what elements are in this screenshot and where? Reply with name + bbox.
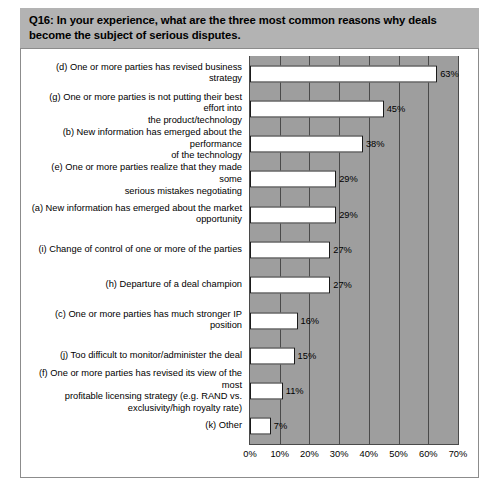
bar-category-label-line: (e) One or more parties realize that the… (27, 162, 242, 185)
bar (250, 136, 363, 153)
bar (250, 383, 283, 400)
bar-category-label-line: of the technology (27, 150, 242, 162)
bar-category-label-line: (h) Departure of a deal champion (27, 279, 242, 291)
bar-category-label: (k) Other (27, 421, 242, 433)
bar-value-label: 29% (339, 174, 358, 184)
bar-category-label: (b) New information has emerged about th… (27, 127, 242, 162)
bar-category-label-line: (g) One or more parties is not putting t… (27, 92, 242, 115)
bar-row: (e) One or more parties realize that the… (21, 162, 478, 197)
bar-category-label-line: opportunity (27, 215, 242, 227)
bar-row: (a) New information has emerged about th… (21, 197, 478, 232)
bar (250, 171, 336, 188)
bar-category-label: (c) One or more parties has much stronge… (27, 309, 242, 332)
bar-row: (g) One or more parties is not putting t… (21, 91, 478, 126)
bar-row: (h) Departure of a deal champion27% (21, 268, 478, 303)
x-tick-label: 10% (265, 449, 295, 459)
x-tick-label: 0% (235, 449, 265, 459)
bar-value-label: 11% (286, 386, 304, 396)
bar-category-label-line: profitable licensing strategy (e.g. RAND… (27, 391, 242, 403)
bar-value-label: 7% (274, 421, 287, 431)
question-title-band: Q16: In your experience, what are the th… (20, 8, 479, 48)
bar-category-label-line: (j) Too difficult to monitor/administer … (27, 350, 242, 362)
bar-row: (f) One or more parties has revised its … (21, 373, 478, 408)
x-axis-line (249, 444, 459, 445)
x-tick-label: 30% (324, 449, 354, 459)
bar-value-label: 27% (333, 280, 352, 290)
bar (250, 65, 437, 82)
bar-category-label: (d) One or more parties has revised busi… (27, 62, 242, 85)
bar-row: (b) New information has emerged about th… (21, 127, 478, 162)
bar-row: (d) One or more parties has revised busi… (21, 56, 478, 91)
bar-category-label-line: (b) New information has emerged about th… (27, 127, 242, 150)
bar-category-label: (g) One or more parties is not putting t… (27, 92, 242, 127)
bar (250, 241, 330, 258)
bar-value-label: 63% (440, 69, 459, 79)
bar-row: (i) Change of control of one or more of … (21, 232, 478, 267)
bar (250, 277, 330, 294)
bar-category-label-line: (k) Other (27, 421, 242, 433)
bar-value-label: 38% (366, 139, 385, 149)
bar-row: (k) Other7% (21, 409, 478, 444)
bar-category-label-line: (f) One or more parties has revised its … (27, 368, 242, 391)
bar-category-label-line: serious mistakes negotiating (27, 185, 242, 197)
bar-category-label: (f) One or more parties has revised its … (27, 368, 242, 414)
page-title: Q16: In your experience, what are the th… (29, 13, 470, 43)
bar-category-label: (i) Change of control of one or more of … (27, 244, 242, 256)
x-tick-label: 40% (354, 449, 384, 459)
bar-row: (c) One or more parties has much stronge… (21, 303, 478, 338)
bar-category-label-line: the product/technology (27, 115, 242, 127)
chart-container: (d) One or more parties has revised busi… (20, 48, 479, 478)
x-tick-label: 20% (294, 449, 324, 459)
bar-category-label-line: (d) One or more parties has revised busi… (27, 62, 242, 85)
x-tick-label: 60% (413, 449, 443, 459)
x-tick-label: 50% (384, 449, 414, 459)
bar (250, 418, 271, 435)
bar (250, 347, 295, 364)
bar-category-label-line: (i) Change of control of one or more of … (27, 244, 242, 256)
bar-value-label: 16% (301, 316, 320, 326)
bar-category-label-line: (a) New information has emerged about th… (27, 203, 242, 215)
bar-value-label: 15% (298, 351, 317, 361)
bar-category-label: (h) Departure of a deal champion (27, 279, 242, 291)
bar-value-label: 29% (339, 210, 358, 220)
bar-category-label-line: (c) One or more parties has much stronge… (27, 309, 242, 332)
bar-value-label: 45% (387, 104, 406, 114)
bar-category-label: (a) New information has emerged about th… (27, 203, 242, 226)
chart-figure: Q16: In your experience, what are the th… (0, 0, 491, 492)
x-tick-label: 70% (443, 449, 473, 459)
bar (250, 206, 336, 223)
bar (250, 100, 384, 117)
bar-value-label: 27% (333, 245, 352, 255)
bar-category-label: (j) Too difficult to monitor/administer … (27, 350, 242, 362)
bar-category-label: (e) One or more parties realize that the… (27, 162, 242, 197)
bar (250, 312, 298, 329)
